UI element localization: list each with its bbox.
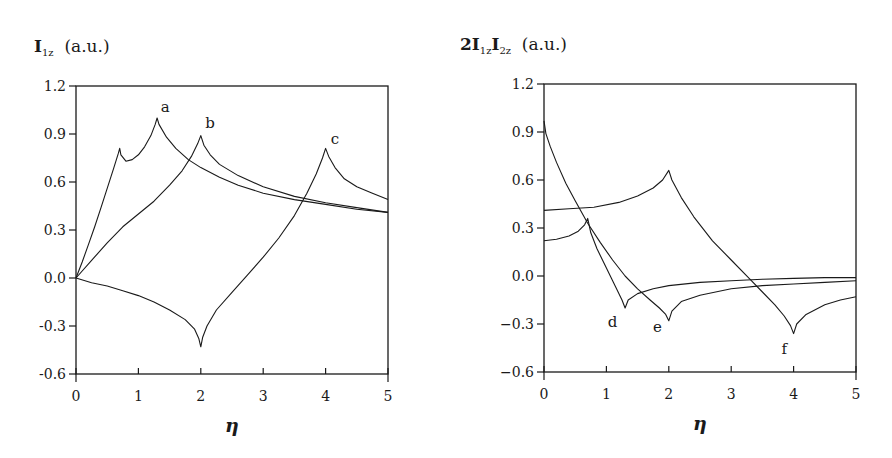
y-tick-label: 1.2	[512, 76, 534, 92]
curve-label-c: c	[331, 130, 339, 148]
x-tick-label: 4	[321, 388, 330, 404]
curve-label-f: f	[781, 340, 788, 358]
y-tick-label: 1.2	[44, 78, 66, 94]
x-tick-label: 1	[602, 386, 611, 402]
chart-panel-i1z: I1z (a.u.) -0.6-0.30.00.30.60.91.2012345…	[0, 0, 446, 458]
x-axis-label: η	[225, 414, 239, 436]
curve-d	[544, 218, 856, 308]
curve-label-b: b	[205, 114, 215, 132]
y-tick-label: 0.9	[512, 124, 534, 140]
x-tick-label: 0	[540, 386, 549, 402]
x-tick-label: 3	[727, 386, 736, 402]
y-tick-label: 0.0	[512, 268, 534, 284]
curve-a	[76, 118, 388, 278]
curve-f	[544, 170, 856, 333]
chart-panel-2i1zi2z: 2I1zI2z (a.u.) −0.6−0.30.00.30.60.91.201…	[446, 0, 892, 458]
y-tick-label: 0.6	[512, 172, 534, 188]
y-tick-label: −0.6	[500, 364, 534, 380]
y-tick-label: −0.3	[500, 316, 534, 332]
curve-label-e: e	[653, 318, 662, 336]
x-tick-label: 0	[72, 388, 81, 404]
curve-e	[544, 121, 856, 321]
y-tick-label: 0.0	[44, 270, 66, 286]
curve-c	[76, 148, 388, 346]
plot-frame	[76, 86, 388, 374]
x-tick-label: 5	[384, 388, 393, 404]
x-tick-label: 4	[789, 386, 798, 402]
y-tick-label: 0.6	[44, 174, 66, 190]
y-tick-label: 0.3	[44, 222, 66, 238]
x-axis-label: η	[693, 412, 707, 434]
y-tick-label: 0.3	[512, 220, 534, 236]
curve-label-a: a	[161, 98, 170, 116]
x-tick-label: 2	[196, 388, 205, 404]
x-tick-label: 5	[852, 386, 861, 402]
y-tick-label: 0.9	[44, 126, 66, 142]
x-tick-label: 3	[259, 388, 268, 404]
plot-area-i1z: -0.6-0.30.00.30.60.91.2012345ηabc	[0, 0, 446, 458]
curve-label-d: d	[608, 313, 618, 331]
x-tick-label: 2	[664, 386, 673, 402]
x-tick-label: 1	[134, 388, 143, 404]
plot-area-2i1zi2z: −0.6−0.30.00.30.60.91.2012345ηdef	[446, 0, 892, 458]
y-tick-label: -0.3	[39, 318, 66, 334]
y-tick-label: -0.6	[39, 366, 66, 382]
